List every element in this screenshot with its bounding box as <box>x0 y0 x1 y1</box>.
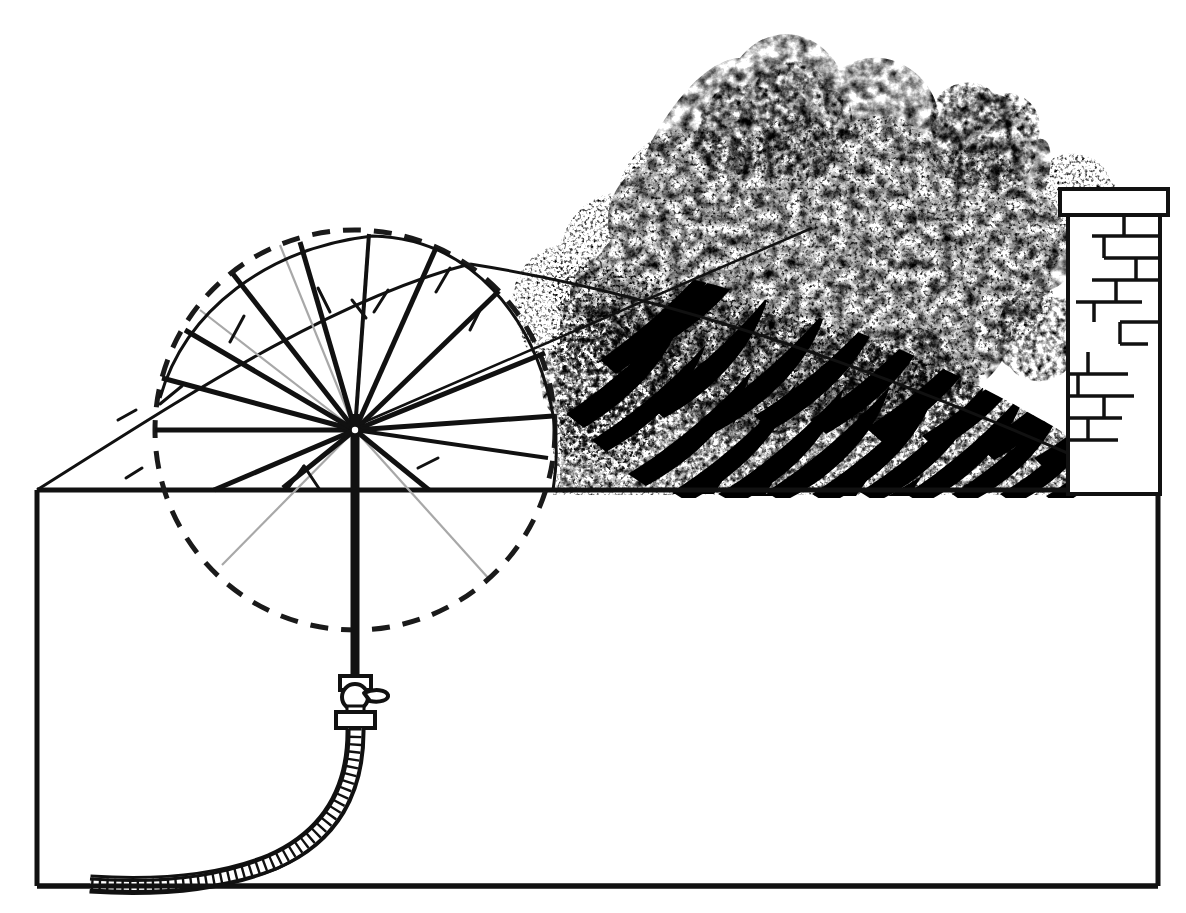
diagram-canvas <box>0 0 1186 913</box>
figure-root: Cellar distributor nozzle spray pattern … <box>0 0 1186 913</box>
chimney-cap <box>1060 189 1168 215</box>
chimney-shaft <box>1068 214 1160 494</box>
distributor-hub <box>352 427 358 433</box>
chimney <box>1060 189 1168 494</box>
hose-coupling <box>336 712 375 728</box>
valve-handle <box>364 690 388 702</box>
